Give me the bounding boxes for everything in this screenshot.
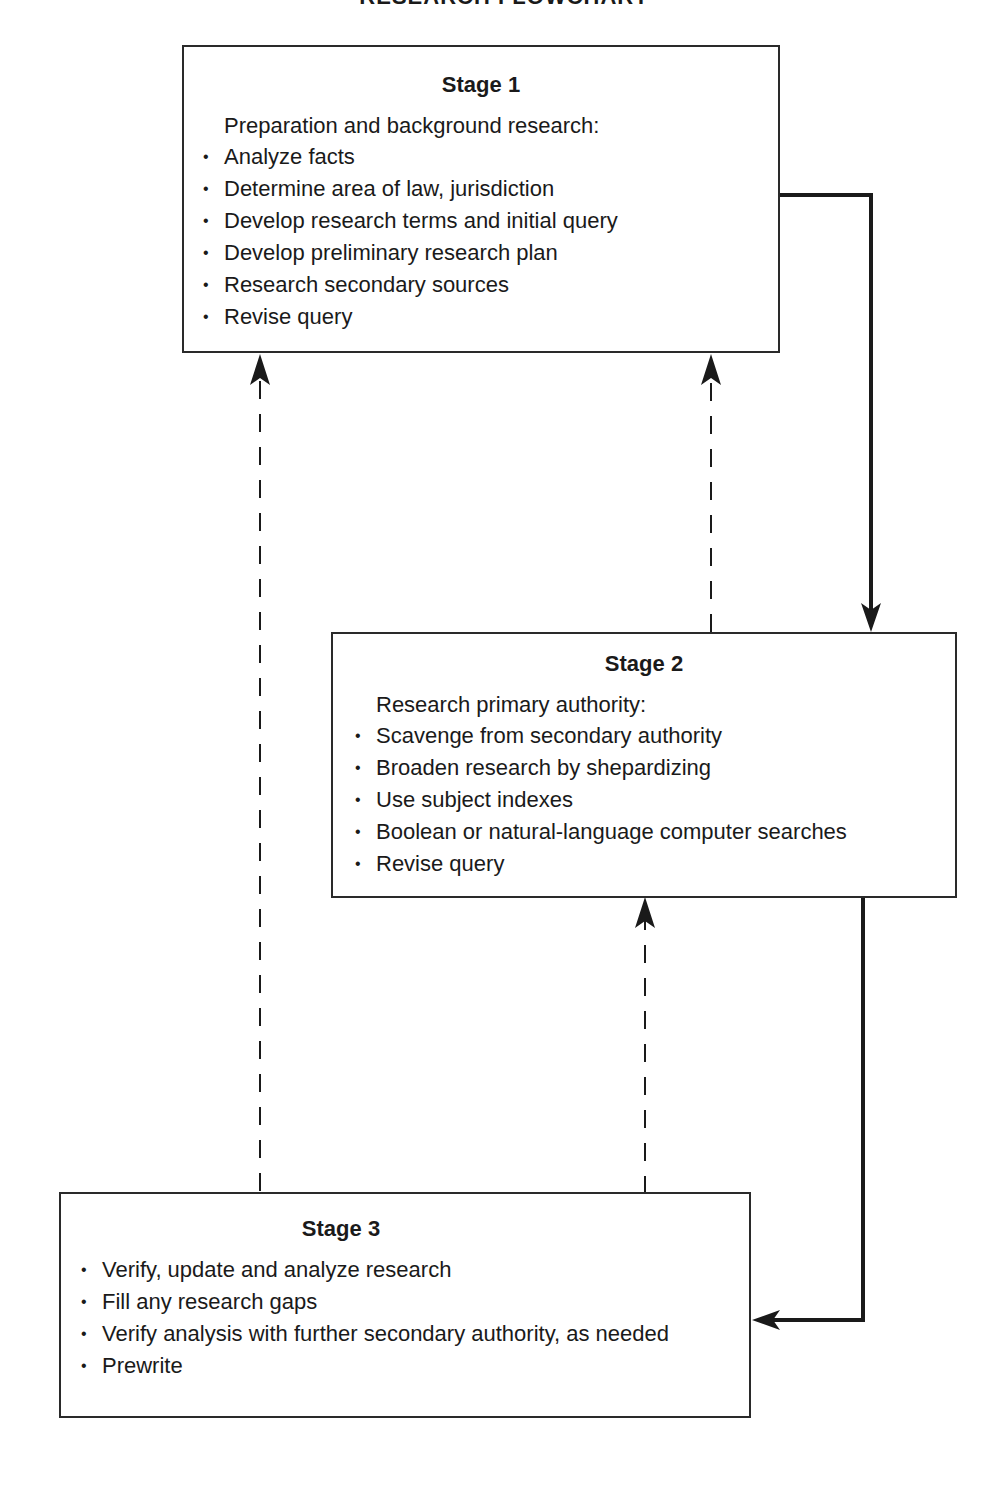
- arrowhead-up-icon: [250, 354, 270, 385]
- bullet-icon: •: [355, 816, 361, 848]
- stage-2-list: •Scavenge from secondary authority •Broa…: [355, 720, 847, 880]
- stage-2-intro: Research primary authority:: [376, 692, 646, 718]
- list-item: •Develop research terms and initial quer…: [203, 205, 618, 237]
- list-item: •Verify analysis with further secondary …: [81, 1318, 669, 1350]
- bullet-icon: •: [203, 237, 209, 269]
- bullet-icon: •: [355, 752, 361, 784]
- arrow-stage3-to-stage1: [250, 354, 270, 1191]
- list-item: •Develop preliminary research plan: [203, 237, 618, 269]
- arrow-stage3-to-stage2: [635, 897, 655, 1194]
- arrowhead-up-icon: [635, 897, 655, 928]
- arrow-stage2-to-stage1: [701, 354, 721, 632]
- list-item: •Scavenge from secondary authority: [355, 720, 847, 752]
- bullet-icon: •: [355, 720, 361, 752]
- flowchart-title: RESEARCH FLOWCHART: [0, 0, 1008, 10]
- bullet-icon: •: [203, 301, 209, 333]
- bullet-icon: •: [81, 1350, 87, 1382]
- list-item: •Boolean or natural-language computer se…: [355, 816, 847, 848]
- list-item: •Research secondary sources: [203, 269, 618, 301]
- stage-3-box: Stage 3 •Verify, update and analyze rese…: [59, 1192, 751, 1418]
- stage-2-heading: Stage 2: [333, 651, 955, 677]
- list-item: •Revise query: [203, 301, 618, 333]
- stage-3-list: •Verify, update and analyze research •Fi…: [81, 1254, 669, 1382]
- bullet-icon: •: [81, 1254, 87, 1286]
- stage-1-heading: Stage 1: [184, 72, 778, 98]
- bullet-icon: •: [203, 269, 209, 301]
- list-item: •Use subject indexes: [355, 784, 847, 816]
- list-item: •Prewrite: [81, 1350, 669, 1382]
- bullet-icon: •: [203, 141, 209, 173]
- arrowhead-up-icon: [701, 354, 721, 385]
- bullet-icon: •: [81, 1318, 87, 1350]
- stage-3-heading: Stage 3: [61, 1216, 621, 1242]
- stage-1-list: •Analyze facts •Determine area of law, j…: [203, 141, 618, 333]
- bullet-icon: •: [355, 848, 361, 880]
- list-item: •Broaden research by shepardizing: [355, 752, 847, 784]
- bullet-icon: •: [203, 205, 209, 237]
- list-item: •Analyze facts: [203, 141, 618, 173]
- arrow-stage1-to-stage2: [780, 195, 881, 632]
- list-item: •Verify, update and analyze research: [81, 1254, 669, 1286]
- stage-1-box: Stage 1 Preparation and background resea…: [182, 45, 780, 353]
- list-item: •Revise query: [355, 848, 847, 880]
- arrowhead-left-icon: [752, 1310, 780, 1330]
- arrow-stage2-to-stage3: [752, 898, 863, 1330]
- bullet-icon: •: [203, 173, 209, 205]
- stage-2-box: Stage 2 Research primary authority: •Sca…: [331, 632, 957, 898]
- bullet-icon: •: [81, 1286, 87, 1318]
- list-item: •Determine area of law, jurisdiction: [203, 173, 618, 205]
- list-item: •Fill any research gaps: [81, 1286, 669, 1318]
- stage-1-intro: Preparation and background research:: [224, 113, 599, 139]
- bullet-icon: •: [355, 784, 361, 816]
- arrowhead-down-icon: [861, 603, 881, 632]
